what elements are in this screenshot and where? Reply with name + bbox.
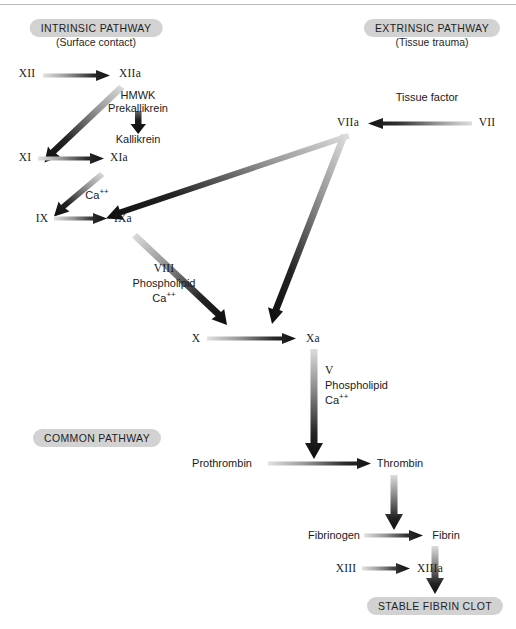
factor-fibrin: Fibrin — [432, 529, 460, 541]
cofactor-ca-xi-ix-charge: ++ — [99, 187, 108, 196]
pathway-badge-intrinsic: INTRINSIC PATHWAY — [30, 19, 163, 37]
factor-xiiia: XIIIa — [417, 562, 443, 574]
pathway-badge-extrinsic: EXTRINSIC PATHWAY — [364, 19, 500, 37]
factor-xia: XIa — [110, 151, 128, 163]
arrow-prothrombin-to-thrombin — [268, 458, 371, 469]
cofactor-viii: VIII — [154, 262, 175, 274]
cofactor-ca-xi-ix: Ca++ — [85, 187, 108, 201]
cofactor-ca-v: Ca++ — [325, 392, 348, 406]
product-kallikrein: Kallikrein — [116, 133, 161, 145]
factor-prothrombin: Prothrombin — [192, 457, 252, 469]
arrow-viia-to-xa — [268, 134, 348, 324]
cofactor-ca-v-charge: ++ — [339, 392, 348, 401]
factor-xiia: XIIa — [119, 67, 141, 79]
pathway-caption-intrinsic: (Surface contact) — [56, 36, 136, 48]
coagulation-cascade-diagram: INTRINSIC PATHWAY (Surface contact) EXTR… — [0, 0, 516, 629]
cofactor-prekallikrein: Prekallikrein — [108, 102, 168, 114]
factor-x: X — [192, 332, 201, 344]
cofactor-ca-xi-ix-label: Ca — [85, 189, 99, 201]
factor-fibrinogen: Fibrinogen — [308, 529, 360, 541]
factor-xa: Xa — [306, 332, 320, 344]
outcome-badge-stable-fibrin-clot: STABLE FIBRIN CLOT — [367, 597, 503, 615]
arrow-vii-to-viia — [368, 118, 472, 129]
cofactor-v: V — [325, 364, 334, 376]
arrow-fibrinogen-to-fibrin — [364, 530, 423, 541]
arrow-xa-to-prothrombin — [305, 349, 323, 459]
cofactor-ca-viii-charge: ++ — [166, 290, 175, 299]
arrow-ix-to-ixa — [54, 213, 107, 224]
cofactor-hmwk: HMWK — [121, 89, 156, 101]
pathway-badge-common: COMMON PATHWAY — [33, 429, 161, 447]
arrow-prekallikrein-to-kallikrein — [131, 111, 147, 134]
factor-xi: XI — [19, 151, 32, 163]
factor-viia: VIIa — [337, 116, 359, 128]
factor-ixa: IXa — [114, 212, 132, 224]
factor-vii: VII — [479, 116, 496, 128]
arrow-xii-to-xiia — [43, 70, 110, 81]
arrow-thrombin-to-fibrinogen — [385, 475, 403, 530]
factor-ix: IX — [36, 212, 49, 224]
cofactor-phospholipid-v: Phospholipid — [325, 379, 388, 391]
arrow-xiii-to-xiiia — [362, 563, 410, 574]
arrow-x-to-xa — [207, 333, 296, 344]
cofactor-tissue-factor: Tissue factor — [396, 91, 459, 103]
factor-thrombin: Thrombin — [377, 457, 423, 469]
cofactor-phospholipid-viii: Phospholipid — [133, 277, 196, 289]
cofactor-ca-viii-label: Ca — [152, 292, 166, 304]
pathway-caption-extrinsic: (Tissue trauma) — [395, 36, 468, 48]
cofactor-ca-viii: Ca++ — [152, 290, 175, 304]
factor-xii: XII — [19, 67, 36, 79]
factor-xiii: XIII — [336, 562, 357, 574]
cofactor-ca-v-label: Ca — [325, 394, 339, 406]
